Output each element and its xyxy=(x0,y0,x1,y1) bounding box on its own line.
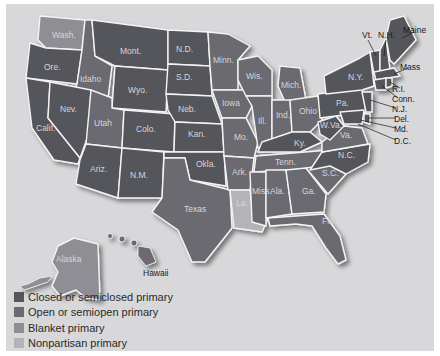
label-va: Va. xyxy=(340,130,352,140)
label-maine: Maine xyxy=(403,25,426,35)
legend-swatch-blanket xyxy=(14,323,24,333)
label-sd: S.D. xyxy=(176,72,193,82)
state-conn xyxy=(374,78,386,90)
state-del xyxy=(364,114,370,124)
label-ala: Ala. xyxy=(270,186,285,196)
label-nm: N.M. xyxy=(130,170,148,180)
label-fla: Fla. xyxy=(322,216,336,226)
label-mo: Mo. xyxy=(234,132,248,142)
label-hawaii: Hawaii xyxy=(143,268,169,278)
label-wva: W.Va. xyxy=(320,120,342,130)
label-wash: Wash. xyxy=(52,30,76,40)
label-miss: Miss. xyxy=(252,186,272,196)
label-ny: N.Y. xyxy=(348,72,363,82)
label-ky: Ky. xyxy=(294,138,306,148)
label-wyo: Wyo. xyxy=(128,85,147,95)
label-tenn: Tenn. xyxy=(275,157,296,167)
label-nc: N.C. xyxy=(338,150,355,160)
label-ark: Ark. xyxy=(232,167,247,177)
label-del: Del. xyxy=(394,114,409,124)
legend-item-open: Open or semiopen primary xyxy=(14,305,173,321)
label-mich: Mich. xyxy=(281,80,301,90)
legend-label: Nonpartisan primary xyxy=(28,337,127,349)
state-maine xyxy=(386,16,416,64)
label-ind: Ind. xyxy=(276,110,290,120)
legend-item-nonpartisan: Nonpartisan primary xyxy=(14,336,173,352)
state-hawaii xyxy=(108,234,157,267)
label-iowa: Iowa xyxy=(222,98,240,108)
state-miss xyxy=(250,172,266,226)
label-minn: Minn. xyxy=(213,55,234,65)
legend-label: Open or semiopen primary xyxy=(28,306,158,318)
label-kan: Kan. xyxy=(188,129,206,139)
label-nd: N.D. xyxy=(176,44,193,54)
label-colo: Colo. xyxy=(136,124,156,134)
legend: Closed or semiclosed primary Open or sem… xyxy=(14,289,173,351)
label-dc: D.C. xyxy=(394,136,411,146)
label-nj: N.J. xyxy=(392,104,407,114)
legend-item-blanket: Blanket primary xyxy=(14,320,173,336)
label-mont: Mont. xyxy=(120,46,141,56)
legend-swatch-open xyxy=(14,307,24,317)
label-utah: Utah xyxy=(94,118,112,128)
label-neb: Neb. xyxy=(178,104,196,114)
label-ohio: Ohio xyxy=(299,106,317,116)
legend-swatch-closed xyxy=(14,292,24,302)
label-nh: N.H. xyxy=(378,30,395,40)
label-texas: Texas xyxy=(184,204,206,214)
label-ga: Ga. xyxy=(302,186,316,196)
label-alaska: Alaska xyxy=(56,254,82,264)
label-ri: R.I. xyxy=(392,84,405,94)
label-la: La. xyxy=(236,198,248,208)
label-ariz: Ariz. xyxy=(90,164,107,174)
label-nev: Nev. xyxy=(60,104,77,114)
label-ill: Ill. xyxy=(258,116,267,126)
legend-label: Closed or semiclosed primary xyxy=(28,291,173,303)
label-idaho: Idaho xyxy=(80,74,102,84)
state-md xyxy=(340,110,364,124)
label-ore: Ore. xyxy=(44,62,61,72)
label-vt: Vt. xyxy=(362,30,372,40)
legend-label: Blanket primary xyxy=(28,322,104,334)
label-okla: Okla. xyxy=(196,159,216,169)
label-pa: Pa. xyxy=(336,98,349,108)
label-sc: S.C. xyxy=(322,168,339,178)
label-mass: Mass xyxy=(400,62,420,72)
legend-swatch-nonpartisan xyxy=(14,338,24,348)
label-calif: Calif. xyxy=(36,123,55,133)
label-wis: Wis. xyxy=(246,71,263,81)
alaska-aleutians xyxy=(20,276,52,290)
label-conn: Conn. xyxy=(392,94,415,104)
label-md: Md. xyxy=(394,124,408,134)
legend-item-closed: Closed or semiclosed primary xyxy=(14,289,173,305)
